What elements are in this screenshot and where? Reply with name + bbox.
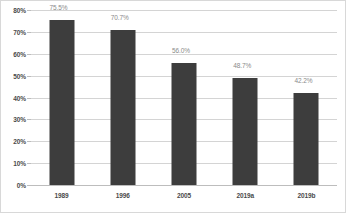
bar[interactable] — [49, 20, 74, 185]
bar-value-label: 48.7% — [233, 62, 251, 70]
bar-value-label: 70.7% — [111, 14, 129, 22]
bar-value-label: 56.0% — [172, 47, 190, 55]
x-axis-tick-label: 2019a — [236, 192, 254, 199]
gridline: 0% — [31, 185, 337, 186]
bar-group[interactable]: 42.2% — [276, 10, 337, 185]
bar[interactable] — [294, 93, 319, 185]
bar-group[interactable]: 75.5% — [31, 10, 92, 185]
bar-chart: 80%70%60%50%40%30%20%10%0% 75.5%70.7%56.… — [0, 0, 346, 213]
y-axis-tick-label: 30% — [13, 116, 26, 123]
y-axis-tick-label: 0% — [17, 182, 26, 189]
plot-area: 80%70%60%50%40%30%20%10%0% 75.5%70.7%56.… — [31, 10, 337, 185]
y-axis-tick-label: 50% — [13, 72, 26, 79]
y-axis-tick-label: 80% — [13, 7, 26, 14]
y-axis-tick-label: 40% — [13, 94, 26, 101]
bar-group[interactable]: 56.0% — [153, 10, 214, 185]
x-axis-labels: 1989199620052019a2019b — [31, 192, 337, 206]
y-axis-tick-mark — [27, 185, 31, 186]
x-axis-tick-label: 1989 — [55, 192, 69, 199]
y-axis-tick-label: 60% — [13, 50, 26, 57]
y-axis-tick-label: 70% — [13, 28, 26, 35]
bars-layer: 75.5%70.7%56.0%48.7%42.2% — [31, 10, 337, 185]
y-axis-tick-label: 10% — [13, 160, 26, 167]
bar[interactable] — [233, 78, 258, 185]
x-axis-tick-label: 1996 — [116, 192, 130, 199]
x-axis-tick-label: 2019b — [297, 192, 315, 199]
bar-group[interactable]: 48.7% — [215, 10, 276, 185]
y-axis-tick-label: 20% — [13, 138, 26, 145]
bar-group[interactable]: 70.7% — [92, 10, 153, 185]
bar[interactable] — [110, 30, 135, 185]
bar[interactable] — [171, 63, 196, 186]
bar-value-label: 42.2% — [294, 77, 312, 85]
x-axis-tick-label: 2005 — [177, 192, 191, 199]
bar-value-label: 75.5% — [50, 4, 68, 12]
